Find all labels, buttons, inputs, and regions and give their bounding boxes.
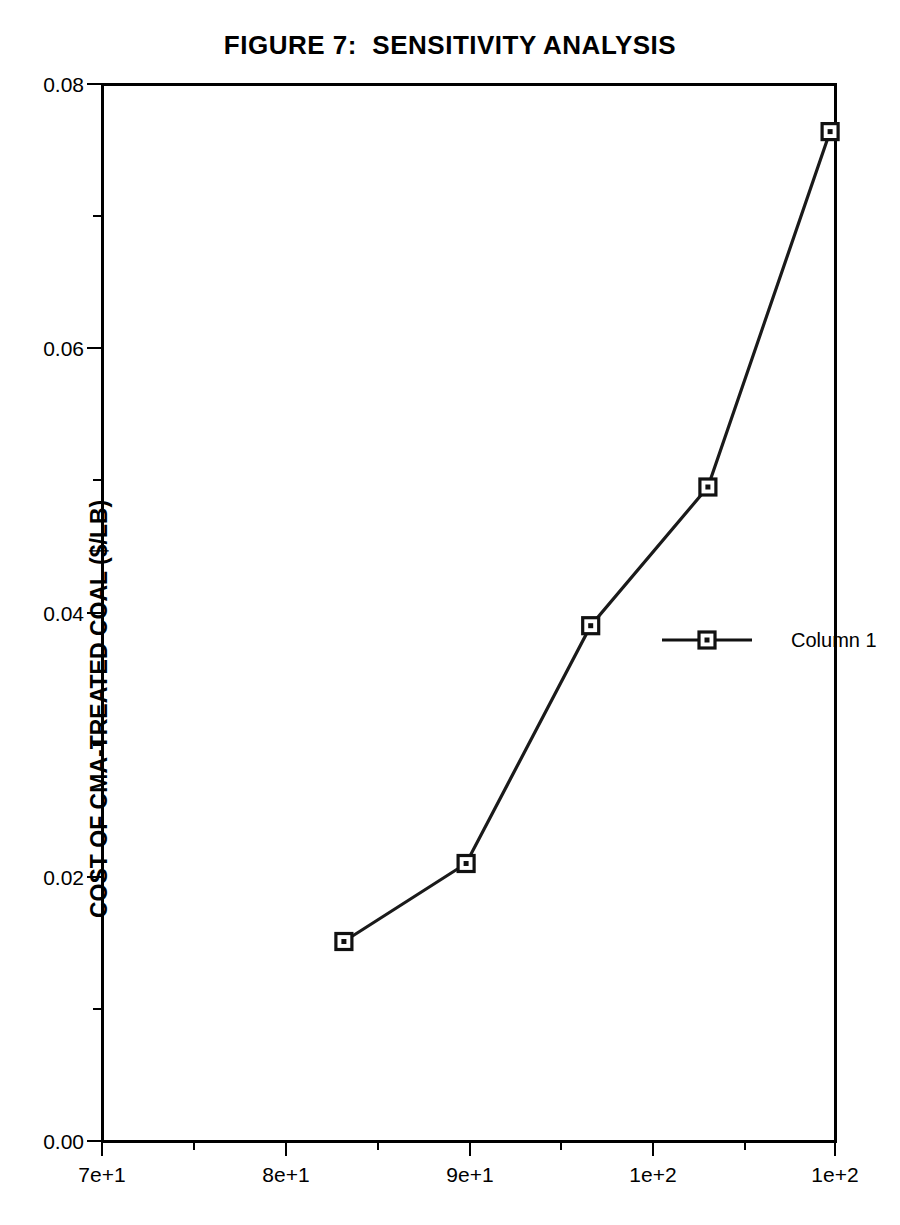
x-tick-label-0: 7e+1	[57, 1163, 147, 1187]
axis-frame	[102, 84, 835, 1141]
y-tick-label-3: 0.02	[12, 866, 84, 890]
x-tick-label-4: 1e+2	[790, 1163, 880, 1187]
data-point-marker-center	[341, 939, 346, 944]
figure-container: FIGURE 7: SENSITIVITY ANALYSIS	[0, 0, 900, 1225]
y-axis-title: COST OF CMA-TREATED COAL ($/LB)	[86, 500, 113, 918]
data-point-marker-center	[588, 623, 593, 628]
y-tick-label-2: 0.04	[12, 602, 84, 626]
x-tick-label-2: 9e+1	[425, 1163, 515, 1187]
x-tick-label-1: 8e+1	[241, 1163, 331, 1187]
x-tick-label-3: 1e+2	[608, 1163, 698, 1187]
chart-plot-area	[0, 0, 900, 1225]
series-markers-column-1	[336, 124, 838, 950]
legend-item-label-column-1: Column 1	[791, 629, 877, 652]
data-point-marker-center	[828, 129, 833, 134]
y-tick-label-1: 0.06	[12, 337, 84, 361]
series-line-column-1	[344, 132, 830, 942]
y-tick-label-4: 0.00	[12, 1130, 84, 1154]
data-point-marker-center	[464, 861, 469, 866]
y-tick-label-0: 0.08	[12, 73, 84, 97]
x-axis-ticks	[102, 1141, 835, 1156]
legend-sample	[662, 632, 752, 648]
data-point-marker-center	[705, 485, 710, 490]
